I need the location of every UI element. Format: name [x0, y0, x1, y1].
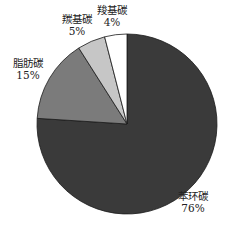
label-name: 羰基碳 — [62, 13, 92, 25]
label-pct: 15% — [13, 69, 43, 81]
label-name: 羧基碳 — [97, 4, 127, 16]
label-carbonyl-carbon: 羰基碳 5% — [62, 13, 92, 37]
label-pct: 5% — [62, 25, 92, 37]
label-name: 苯环碳 — [178, 190, 208, 202]
label-carboxyl-carbon: 羧基碳 4% — [97, 4, 127, 28]
label-pct: 4% — [97, 16, 127, 28]
label-aliphatic-carbon: 脂肪碳 15% — [13, 57, 43, 81]
label-name: 脂肪碳 — [13, 57, 43, 69]
label-pct: 76% — [178, 202, 208, 214]
label-benzene-ring-carbon: 苯环碳 76% — [178, 190, 208, 214]
